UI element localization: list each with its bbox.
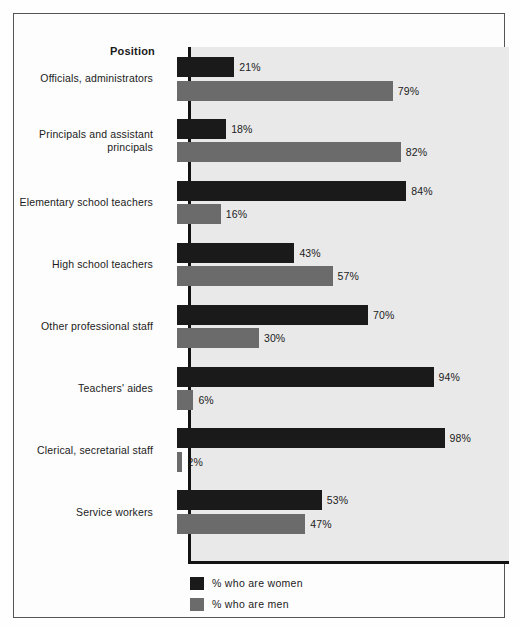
legend-label: % who are men [212, 596, 289, 612]
bar-value-label: 94% [439, 367, 460, 387]
legend-label: % who are women [212, 575, 303, 591]
category-label: Other professional staff [0, 320, 153, 333]
bar-value-label: 16% [226, 204, 247, 224]
bar-value-label: 2% [187, 452, 202, 472]
category-label: High school teachers [0, 258, 153, 271]
bar-value-label: 70% [373, 305, 394, 325]
category-label: Clerical, secretarial staff [0, 444, 153, 457]
x-axis-line [188, 561, 509, 564]
bar-value-label: 53% [327, 490, 348, 510]
category-label-line: Clerical, secretarial staff [0, 444, 153, 457]
axis-header-position: Position [110, 45, 155, 57]
bar-men [177, 142, 401, 162]
bar-value-label: 21% [239, 57, 260, 77]
bar-men [177, 452, 182, 472]
bar-men [177, 390, 193, 410]
bar-value-label: 18% [231, 119, 252, 139]
bar-value-label: 79% [398, 81, 419, 101]
category-label-line: principals [0, 141, 153, 154]
figure-frame: Position Officials, administratorsPrinci… [13, 13, 505, 618]
bar-women [177, 490, 322, 510]
category-label-line: High school teachers [0, 258, 153, 271]
bar-value-label: 82% [406, 142, 427, 162]
category-label-line: Teachers' aides [0, 382, 153, 395]
bar-women [177, 305, 368, 325]
category-label-line: Service workers [0, 506, 153, 519]
bar-men [177, 266, 333, 286]
bar-value-label: 98% [450, 428, 471, 448]
category-label: Teachers' aides [0, 382, 153, 395]
figure-canvas: Position Officials, administratorsPrinci… [0, 0, 520, 627]
bar-men [177, 328, 259, 348]
bar-women [177, 428, 445, 448]
bar-men [177, 514, 305, 534]
bar-value-label: 47% [310, 514, 331, 534]
bar-women [177, 57, 234, 77]
category-label: Principals and assistantprincipals [0, 128, 153, 154]
category-label-line: Other professional staff [0, 320, 153, 333]
bar-value-label: 30% [264, 328, 285, 348]
bar-value-label: 43% [299, 243, 320, 263]
category-label: Elementary school teachers [0, 196, 153, 209]
bar-men [177, 81, 393, 101]
bar-women [177, 181, 406, 201]
bar-value-label: 57% [338, 266, 359, 286]
bar-women [177, 367, 434, 387]
legend-swatch-women [190, 577, 204, 590]
category-label-line: Officials, administrators [0, 72, 153, 85]
bar-value-label: 84% [411, 181, 432, 201]
bar-value-label: 6% [198, 390, 213, 410]
category-label: Officials, administrators [0, 72, 153, 85]
category-label: Service workers [0, 506, 153, 519]
legend-swatch-men [190, 598, 204, 611]
category-label-line: Principals and assistant [0, 128, 153, 141]
bar-women [177, 243, 294, 263]
bar-women [177, 119, 226, 139]
category-label-line: Elementary school teachers [0, 196, 153, 209]
bar-men [177, 204, 221, 224]
